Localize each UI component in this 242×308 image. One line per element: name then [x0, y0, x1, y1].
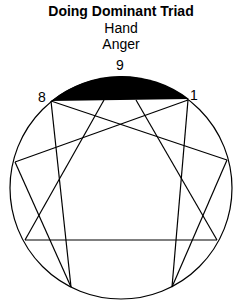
enneagram-lines — [15, 100, 227, 287]
enneagram-circle — [10, 77, 232, 299]
enneagram-figure — [0, 0, 242, 308]
